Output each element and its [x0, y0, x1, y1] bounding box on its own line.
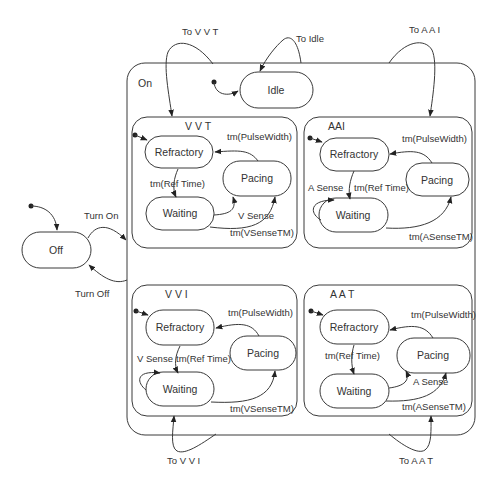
transition-to-aai[interactable]: To A A I [389, 24, 440, 116]
aai-pacing-label: Pacing [421, 174, 453, 186]
transition-to-aat[interactable]: To A A T [389, 416, 433, 466]
vvt-sense-label: V Sense [238, 210, 274, 221]
aai-waiting[interactable]: Waiting [319, 198, 388, 232]
vvt-pacing[interactable]: Pacing [223, 161, 291, 196]
turn-on-label: Turn On [84, 210, 119, 221]
aai-refractory-label: Refractory [330, 148, 379, 160]
vvi-waiting[interactable]: Waiting [146, 372, 214, 406]
transition-to-vvi[interactable]: To V V I [167, 416, 216, 466]
mode-vvt[interactable]: V V T Refractory Pacing Waiting tm(Pulse… [132, 117, 297, 248]
transition-turn-off[interactable]: Turn Off [75, 265, 127, 299]
aat-waiting-label: Waiting [337, 385, 372, 397]
to-aai-label: To A A I [409, 24, 440, 35]
aat-waiting[interactable]: Waiting [320, 374, 389, 408]
initial-off [29, 204, 58, 231]
aat-refractory-label: Refractory [330, 321, 379, 333]
mode-aat[interactable]: A A T Refractory Pacing Waiting tm(Pulse… [304, 285, 476, 416]
vvt-refractory[interactable]: Refractory [145, 136, 213, 168]
transition-to-vvt[interactable]: To V V T [166, 26, 218, 116]
vvt-waiting-label: Waiting [163, 207, 198, 219]
mode-aai[interactable]: AAI Refractory Pacing Waiting tm(PulseWi… [304, 117, 473, 248]
state-off-label: Off [49, 244, 63, 256]
aat-pacing-label: Pacing [417, 349, 449, 361]
vvt-refractory-label: Refractory [155, 146, 204, 158]
state-off[interactable]: Off [22, 232, 91, 268]
vvt-pacing-label: Pacing [241, 172, 273, 184]
vvi-pacing[interactable]: Pacing [230, 336, 296, 370]
state-on-label: On [138, 77, 152, 89]
aai-ref-label: tm(Ref Time) [354, 182, 409, 193]
aai-waiting-label: Waiting [336, 209, 371, 221]
vvt-pulse-label: tm(PulseWidth) [227, 131, 292, 142]
aat-pulse-label: tm(PulseWidth) [411, 309, 476, 320]
aat-refractory[interactable]: Refractory [320, 310, 389, 344]
aai-pulse-label: tm(PulseWidth) [402, 133, 467, 144]
state-idle[interactable]: Idle [240, 72, 313, 108]
vvi-pulse-label: tm(PulseWidth) [228, 307, 293, 318]
mode-aai-title: AAI [328, 120, 345, 132]
mode-vvi-title: V V I [165, 288, 188, 300]
vvi-sensetm-label: tm(VSenseTM) [230, 403, 294, 414]
to-aat-label: To A A T [399, 455, 433, 466]
aai-sense-label: A Sense [308, 182, 343, 193]
aat-ref-label: tm(Ref Time) [325, 350, 380, 361]
vvi-sense-label: V Sense [137, 353, 173, 364]
turn-off-label: Turn Off [75, 288, 110, 299]
mode-vvt-title: V V T [185, 120, 212, 132]
to-vvi-label: To V V I [167, 455, 200, 466]
aai-sensetm-label: tm(ASenseTM) [409, 231, 473, 242]
transition-turn-on[interactable]: Turn On [84, 210, 126, 240]
vvt-sensetm-label: tm(VSenseTM) [230, 227, 294, 238]
aat-pacing[interactable]: Pacing [397, 338, 470, 373]
initial-idle [212, 80, 239, 95]
state-idle-label: Idle [268, 84, 285, 96]
to-vvt-label: To V V T [182, 26, 218, 37]
aat-sensetm-label: tm(ASenseTM) [402, 401, 466, 412]
transition-to-idle[interactable]: To Idle [260, 33, 324, 71]
vvt-ref-label: tm(Ref Time) [150, 178, 205, 189]
to-idle-label: To Idle [296, 33, 324, 44]
mode-vvi[interactable]: V V I Refractory Pacing Waiting tm(Pulse… [132, 285, 297, 416]
vvi-refractory[interactable]: Refractory [146, 310, 214, 345]
vvi-ref-label: tm(Ref Time) [176, 353, 231, 364]
vvt-waiting[interactable]: Waiting [146, 197, 214, 230]
vvi-refractory-label: Refractory [156, 321, 205, 333]
aai-refractory[interactable]: Refractory [320, 138, 389, 171]
statechart-diagram: Off Turn On Turn Off On Idle To V V T To… [0, 0, 499, 488]
aai-pacing[interactable]: Pacing [406, 163, 469, 196]
vvi-pacing-label: Pacing [247, 347, 279, 359]
mode-aat-title: A A T [330, 288, 355, 300]
vvi-waiting-label: Waiting [163, 383, 198, 395]
